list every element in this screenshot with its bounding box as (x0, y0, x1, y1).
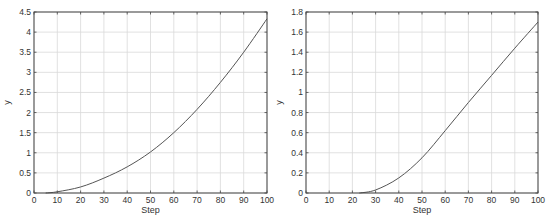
x-tick-label: 80 (216, 195, 226, 205)
x-tick-label: 30 (371, 195, 381, 205)
x-tick-label: 10 (324, 195, 334, 205)
x-tick-label: 10 (53, 195, 63, 205)
x-tick-label: 40 (122, 195, 132, 205)
x-tick-label: 0 (304, 195, 309, 205)
x-tick-label: 70 (464, 195, 474, 205)
x-tick-label: 90 (510, 195, 520, 205)
y-tick-label: 1.8 (291, 7, 303, 17)
y-tick-label: 0.5 (19, 168, 31, 178)
x-tick-label: 70 (192, 195, 202, 205)
y-axis-label: y (2, 100, 12, 105)
data-line (359, 22, 538, 193)
data-line (46, 19, 267, 193)
y-tick-label: 2 (26, 108, 31, 118)
x-tick-label: 40 (394, 195, 404, 205)
x-tick-label: 100 (260, 195, 274, 205)
y-tick-label: 4.5 (19, 7, 31, 17)
y-tick-label: 0.8 (291, 108, 303, 118)
y-tick-label: 1 (298, 87, 303, 97)
x-tick-label: 20 (76, 195, 86, 205)
right-plot: 010203040506070809010000.20.40.60.811.21… (274, 7, 545, 215)
x-tick-label: 50 (146, 195, 156, 205)
y-tick-label: 0 (26, 188, 31, 198)
y-tick-label: 1 (26, 148, 31, 158)
y-tick-label: 0 (298, 188, 303, 198)
y-tick-label: 1.4 (291, 47, 303, 57)
x-tick-label: 0 (32, 195, 37, 205)
clipped-caption (0, 216, 551, 221)
y-tick-label: 1.5 (19, 128, 31, 138)
y-tick-label: 2.5 (19, 87, 31, 97)
figure: 010203040506070809010000.511.522.533.544… (0, 0, 551, 221)
y-tick-label: 1.6 (291, 27, 303, 37)
x-tick-label: 50 (417, 195, 427, 205)
x-tick-label: 100 (531, 195, 545, 205)
x-tick-label: 30 (99, 195, 109, 205)
y-tick-label: 0.2 (291, 168, 303, 178)
x-tick-label: 80 (487, 195, 497, 205)
y-tick-label: 0.4 (291, 148, 303, 158)
x-tick-label: 60 (169, 195, 179, 205)
x-tick-label: 90 (239, 195, 249, 205)
y-axis-label: y (274, 100, 284, 105)
y-tick-label: 0.6 (291, 128, 303, 138)
left-plot: 010203040506070809010000.511.522.533.544… (2, 7, 274, 215)
x-tick-label: 20 (348, 195, 358, 205)
x-tick-label: 60 (440, 195, 450, 205)
x-axis-label: Step (141, 205, 160, 215)
x-axis-label: Step (413, 205, 432, 215)
y-tick-label: 1.2 (291, 67, 303, 77)
y-tick-label: 3.5 (19, 47, 31, 57)
y-tick-label: 4 (26, 27, 31, 37)
y-tick-label: 3 (26, 67, 31, 77)
